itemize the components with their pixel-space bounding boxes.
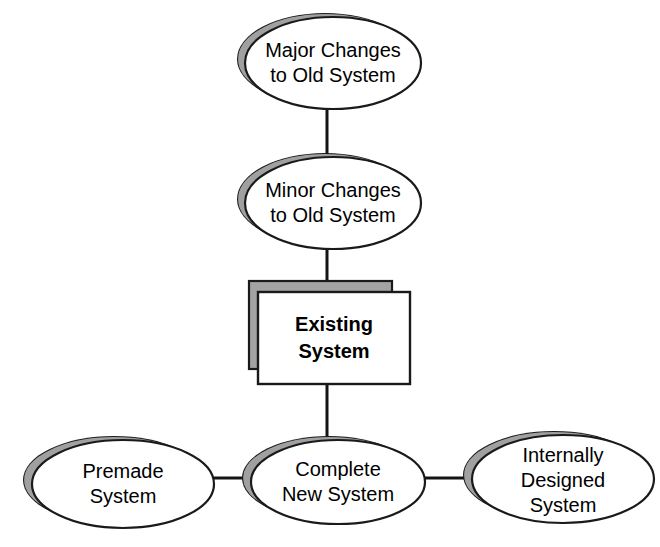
minor-changes-ellipse xyxy=(245,157,421,249)
internally-designed-system-label-line2: Designed xyxy=(521,469,606,491)
existing-system-label-line2: System xyxy=(298,340,369,362)
major-changes-label-line2: to Old System xyxy=(270,64,396,86)
minor-changes-label-line2: to Old System xyxy=(270,204,396,226)
diagram-canvas: Major Changes to Old System Minor Change… xyxy=(0,0,660,547)
complete-new-system-label-line2: New System xyxy=(282,483,394,505)
premade-system-ellipse xyxy=(32,440,214,528)
node-complete-new-system[interactable]: Complete New System xyxy=(242,436,425,524)
major-changes-label: Major Changes xyxy=(265,39,401,61)
internally-designed-system-label-line3: System xyxy=(530,494,597,516)
diagram-svg: Major Changes to Old System Minor Change… xyxy=(0,0,660,547)
node-minor-changes[interactable]: Minor Changes to Old System xyxy=(237,153,421,249)
complete-new-system-ellipse xyxy=(251,440,425,524)
minor-changes-label: Minor Changes xyxy=(265,179,401,201)
premade-system-label-line2: System xyxy=(90,485,157,507)
node-major-changes[interactable]: Major Changes to Old System xyxy=(237,13,421,109)
node-existing-system[interactable]: Existing System xyxy=(249,281,410,384)
internally-designed-system-label: Internally xyxy=(522,444,603,466)
complete-new-system-label: Complete xyxy=(295,458,381,480)
major-changes-ellipse xyxy=(245,17,421,109)
premade-system-label: Premade xyxy=(82,460,163,482)
node-internally-designed-system[interactable]: Internally Designed System xyxy=(463,431,654,523)
existing-system-box xyxy=(258,292,410,384)
existing-system-label: Existing xyxy=(295,313,373,335)
node-premade-system[interactable]: Premade System xyxy=(23,436,214,528)
